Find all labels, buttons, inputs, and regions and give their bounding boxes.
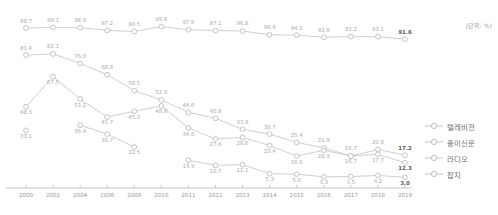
data-point[interactable] xyxy=(78,25,83,30)
data-point-label: 82.1 xyxy=(47,43,59,49)
data-point-label: 23.4 xyxy=(264,148,277,154)
data-point-label: 68.8 xyxy=(101,64,114,70)
data-point-label: 20.3 xyxy=(318,153,330,159)
data-point[interactable] xyxy=(24,53,29,58)
legend-label-television: 텔레비전 xyxy=(444,121,475,132)
legend-marker-icon xyxy=(424,137,444,147)
data-point[interactable] xyxy=(376,34,381,39)
data-point-label: 94.4 xyxy=(264,24,277,30)
x-axis-tick-label: 2006 xyxy=(100,192,115,198)
data-point-label: 25.4 xyxy=(291,132,304,138)
data-point[interactable] xyxy=(321,35,326,40)
legend-item-radio[interactable]: 라디오 xyxy=(424,150,498,166)
data-point-label: 10.7 xyxy=(209,168,221,174)
x-axis-tick-label: 2010 xyxy=(154,192,169,198)
legend-label-radio: 라디오 xyxy=(444,153,468,164)
data-point[interactable] xyxy=(159,98,164,103)
media-usage-line-chart: 2000200220042006200820102011201220132014… xyxy=(0,0,498,215)
data-point-label: 3.5 xyxy=(347,179,356,185)
data-point[interactable] xyxy=(24,26,29,31)
data-point-label: 3.0 xyxy=(400,180,410,186)
data-point-label: 21.9 xyxy=(318,137,331,143)
data-point-label: 30.7 xyxy=(264,124,276,130)
data-point[interactable] xyxy=(105,28,110,33)
legend-item-magazine[interactable]: 잡지 xyxy=(424,166,498,182)
data-point[interactable] xyxy=(213,28,218,33)
data-point-label: 16.7 xyxy=(345,158,357,164)
data-point[interactable] xyxy=(78,61,83,66)
data-point-label: 76.0 xyxy=(74,53,87,59)
data-point[interactable] xyxy=(213,116,218,121)
data-point-label: 12.3 xyxy=(398,165,412,171)
data-point-label: 81.4 xyxy=(20,45,33,51)
data-point-label: 5.0 xyxy=(292,177,301,183)
data-point-label: 33.8 xyxy=(237,119,250,125)
data-point[interactable] xyxy=(294,33,299,38)
data-point[interactable] xyxy=(186,27,191,32)
data-point-label: 97.6 xyxy=(182,19,195,25)
data-point-label: 96.5 xyxy=(128,21,140,27)
data-point-label: 44.6 xyxy=(182,102,195,108)
data-point-label: 40.8 xyxy=(209,108,222,114)
data-point[interactable] xyxy=(51,25,56,30)
data-point-label: 36.4 xyxy=(74,128,87,134)
data-point[interactable] xyxy=(376,147,381,152)
data-point-label: 17.7 xyxy=(372,157,384,163)
data-point-label: 33.1 xyxy=(20,133,32,139)
data-point[interactable] xyxy=(348,34,353,39)
data-point-label: 93.2 xyxy=(345,26,357,32)
legend-item-newspaper[interactable]: 종이신문 xyxy=(424,134,498,150)
data-point[interactable] xyxy=(294,140,299,145)
data-point-label: 52.6 xyxy=(155,89,168,95)
data-point-label: 17.2 xyxy=(398,145,412,151)
data-point-label: 97.2 xyxy=(101,20,113,26)
data-point-label: 67.5 xyxy=(47,79,59,85)
data-point-label: 98.7 xyxy=(20,18,32,24)
x-axis-tick-label: 2012 xyxy=(208,192,222,198)
data-point-label: 16.6 xyxy=(291,159,304,165)
data-point-label: 11.1 xyxy=(237,167,249,173)
data-point-label: 99.1 xyxy=(47,17,59,23)
data-point[interactable] xyxy=(240,127,245,132)
legend-label-newspaper: 종이신문 xyxy=(444,137,475,148)
legend-marker-icon xyxy=(424,153,444,163)
data-point[interactable] xyxy=(132,88,137,93)
data-point-label: 28.6 xyxy=(237,140,250,146)
chart-legend: 텔레비전 종이신문 라디오 xyxy=(424,118,498,182)
data-point-label: 13.9 xyxy=(182,163,195,169)
unit-note: (단위: %) xyxy=(466,21,492,30)
legend-item-television[interactable]: 텔레비전 xyxy=(424,118,498,134)
data-point-label: 5.3 xyxy=(265,176,274,182)
data-point-label: 48.8 xyxy=(155,108,168,114)
x-axis-tick-label: 2018 xyxy=(371,192,386,198)
x-axis-tick-label: 2002 xyxy=(46,192,60,198)
data-point[interactable] xyxy=(105,72,110,77)
data-point[interactable] xyxy=(240,29,245,34)
plot-area: 2000200220042006200820102011201220132014… xyxy=(0,0,415,215)
data-point[interactable] xyxy=(51,52,56,57)
data-point-label: 93.1 xyxy=(372,26,384,32)
data-point-label: 16.7 xyxy=(345,145,357,151)
legend-label-magazine: 잡지 xyxy=(444,169,461,180)
data-point-label: 91.6 xyxy=(398,29,412,35)
x-axis-tick-label: 2014 xyxy=(263,192,278,198)
data-point-label: 92.8 xyxy=(318,27,331,33)
data-point[interactable] xyxy=(403,37,408,42)
data-point[interactable] xyxy=(159,24,164,29)
x-axis-tick-label: 2011 xyxy=(181,192,196,198)
data-point[interactable] xyxy=(186,110,191,115)
data-point-label: 94.1 xyxy=(291,25,303,31)
data-point[interactable] xyxy=(267,132,272,137)
x-axis-tick-label: 2019 xyxy=(398,192,413,198)
data-point-label: 41.7 xyxy=(101,119,113,125)
x-axis-tick-label: 2016 xyxy=(317,192,332,198)
data-point-label: 27.6 xyxy=(209,141,222,147)
data-point[interactable] xyxy=(132,29,137,34)
data-point[interactable] xyxy=(403,153,408,158)
x-axis-tick-label: 2013 xyxy=(235,192,250,198)
data-point-label: 48.3 xyxy=(20,109,32,115)
legend-marker-icon xyxy=(424,169,444,179)
data-point-label: 3.3 xyxy=(320,179,329,185)
data-point[interactable] xyxy=(267,32,272,37)
data-point-label: 97.1 xyxy=(209,20,221,26)
